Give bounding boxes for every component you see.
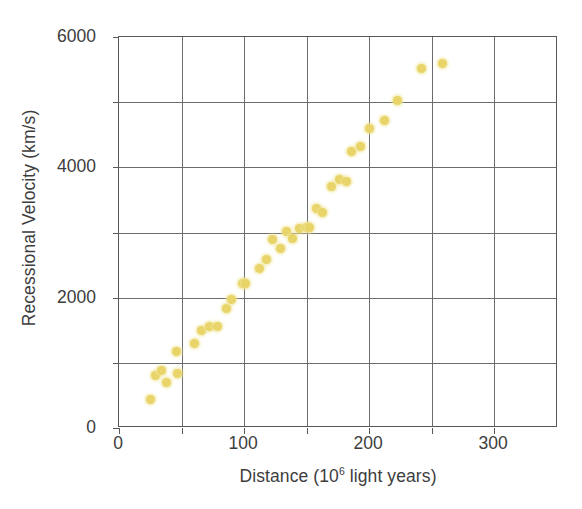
data-point <box>205 322 214 331</box>
data-point <box>356 142 365 151</box>
y-axis-tick <box>113 298 119 299</box>
gridline-horizontal <box>119 102 556 103</box>
y-axis-tick <box>113 428 119 429</box>
data-point <box>393 96 402 105</box>
x-axis-tick <box>307 428 308 434</box>
data-point <box>268 235 277 244</box>
y-tick-label: 4000 <box>0 156 108 177</box>
data-point <box>318 208 327 217</box>
data-point <box>365 124 374 133</box>
gridline-vertical <box>182 37 183 426</box>
y-axis-tick <box>113 233 119 234</box>
data-point <box>262 255 271 264</box>
data-point <box>227 295 236 304</box>
y-axis-tick-labels: 0200040006000 <box>0 36 108 427</box>
data-point <box>417 64 426 73</box>
y-axis-tick <box>113 37 119 38</box>
gridline-vertical <box>244 37 245 426</box>
x-axis-tick <box>182 428 183 434</box>
data-point <box>380 116 389 125</box>
x-axis-label: Distance (106 light years) <box>118 466 558 487</box>
gridline-vertical <box>494 37 495 426</box>
x-axis-label-prefix: Distance (10 <box>239 466 338 486</box>
x-axis-label-suffix: light years) <box>345 466 437 486</box>
gridline-vertical <box>369 37 370 426</box>
data-point <box>162 378 171 387</box>
data-point <box>255 264 264 273</box>
y-axis-tick <box>113 167 119 168</box>
data-point <box>438 59 447 68</box>
y-tick-label: 2000 <box>0 286 108 307</box>
x-axis-tick <box>432 428 433 434</box>
data-point <box>288 234 297 243</box>
data-point <box>146 395 155 404</box>
plot-area <box>118 36 557 427</box>
y-axis-tick <box>113 102 119 103</box>
data-point <box>241 279 250 288</box>
y-tick-label: 0 <box>0 417 108 438</box>
data-point <box>305 223 314 232</box>
data-point <box>347 147 356 156</box>
data-point <box>222 304 231 313</box>
x-tick-label: 300 <box>479 433 508 454</box>
x-tick-label: 200 <box>354 433 383 454</box>
gridline-vertical <box>432 37 433 426</box>
y-tick-label: 6000 <box>0 26 108 47</box>
hubble-scatter-chart: Recessional Velocity (km/s) 020004000600… <box>0 0 582 509</box>
data-point <box>190 339 199 348</box>
gridline-horizontal <box>119 363 556 364</box>
data-point <box>172 347 181 356</box>
data-point <box>276 244 285 253</box>
gridline-horizontal <box>119 167 556 168</box>
gridline-horizontal <box>119 298 556 299</box>
data-point <box>327 182 336 191</box>
x-tick-label: 100 <box>228 433 257 454</box>
x-tick-label: 0 <box>113 433 123 454</box>
data-point <box>213 322 222 331</box>
data-point <box>157 366 166 375</box>
y-axis-tick <box>113 363 119 364</box>
data-point <box>342 177 351 186</box>
gridline-horizontal <box>119 233 556 234</box>
